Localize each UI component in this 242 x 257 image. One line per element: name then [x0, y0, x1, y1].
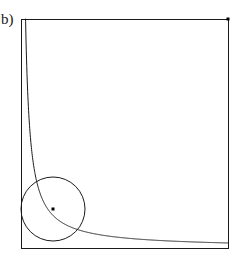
top-right-corner-point-marker — [227, 18, 230, 21]
figure-drawing-canvas — [0, 0, 242, 257]
unit-square-frame — [22, 20, 229, 249]
figure-panel-b: g b) — [0, 0, 242, 257]
circle-center-point-marker — [52, 208, 55, 211]
hyperbola-curve — [26, 19, 228, 243]
